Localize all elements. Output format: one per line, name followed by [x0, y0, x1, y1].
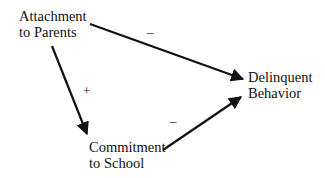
node-delinquent-line1: Delinquent [248, 69, 312, 85]
edge-sign-attachment-delinquent: – [147, 25, 154, 38]
node-commitment-line2: to School [89, 155, 166, 171]
edge-sign-attachment-commitment: + [83, 84, 90, 97]
arrow-attachment-to-commitment [52, 46, 87, 134]
node-delinquent-behavior: Delinquent Behavior [248, 69, 312, 101]
node-attachment-line2: to Parents [19, 24, 87, 40]
node-attachment-line1: Attachment [19, 8, 87, 24]
arrow-attachment-to-delinquent [90, 24, 243, 79]
edge-sign-commitment-delinquent: – [170, 114, 177, 127]
node-commitment-line1: Commitment [89, 139, 166, 155]
node-delinquent-line2: Behavior [248, 85, 312, 101]
node-commitment-to-school: Commitment to School [89, 139, 166, 171]
node-attachment-to-parents: Attachment to Parents [19, 8, 87, 40]
